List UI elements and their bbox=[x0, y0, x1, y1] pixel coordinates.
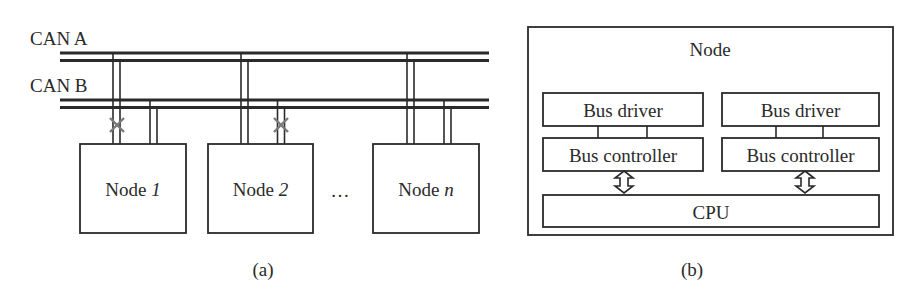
node-title: Node bbox=[689, 39, 730, 60]
can-a-label: CAN A bbox=[30, 28, 88, 49]
node-1-prefix: Node bbox=[105, 179, 151, 200]
can-redundancy-figure: CAN A CAN B bbox=[0, 0, 923, 292]
node-1-can-a-failure-x-icon bbox=[110, 118, 124, 132]
svg-text:Node 1: Node 1 bbox=[105, 179, 160, 200]
bus-driver-1-label: Bus driver bbox=[583, 100, 663, 121]
node-1-box: Node 1 bbox=[80, 144, 186, 233]
bus-driver-2-label: Bus driver bbox=[761, 100, 841, 121]
node-1-index: 1 bbox=[151, 179, 161, 200]
caption-b: (b) bbox=[681, 259, 703, 281]
node-2-box: Node 2 bbox=[208, 144, 313, 233]
caption-a: (a) bbox=[252, 259, 273, 281]
bus-controller-2-label: Bus controller bbox=[746, 145, 855, 166]
node-ellipsis: … bbox=[331, 180, 350, 201]
diagram-b-node-structure: Node Bus driver Bus controller Bus drive… bbox=[528, 27, 893, 281]
svg-text:Node n: Node n bbox=[398, 179, 453, 200]
cpu-label: CPU bbox=[693, 202, 730, 223]
node-2-index: 2 bbox=[279, 179, 289, 200]
node-n-box: Node n bbox=[373, 144, 479, 233]
diagram-a-bus-topology: CAN A CAN B bbox=[30, 28, 489, 281]
node-n-index: n bbox=[444, 179, 454, 200]
bus-controller-1-label: Bus controller bbox=[569, 145, 678, 166]
node-2-prefix: Node bbox=[233, 179, 279, 200]
node-2-can-b-failure-x-icon bbox=[274, 118, 288, 132]
can-a-bus bbox=[60, 53, 489, 61]
node-n-prefix: Node bbox=[398, 179, 444, 200]
can-b-label: CAN B bbox=[30, 75, 88, 96]
svg-text:Node 2: Node 2 bbox=[233, 179, 289, 200]
can-b-bus bbox=[60, 100, 489, 108]
